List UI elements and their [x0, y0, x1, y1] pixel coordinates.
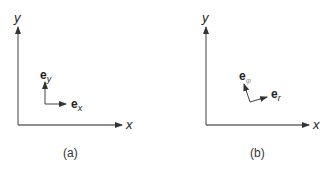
ephi-vector [244, 84, 250, 102]
caption-a: (a) [63, 146, 78, 160]
diagram-canvas: y x ey ex y x eφ er [0, 0, 329, 170]
x-axis-label-a: x [125, 117, 133, 132]
caption-b: (b) [250, 146, 265, 160]
y-axis-label-b: y [201, 10, 210, 25]
figure-a: y x ey ex [13, 10, 133, 132]
er-label: er [271, 87, 282, 103]
x-axis-label-b: x [312, 117, 320, 132]
ephi-label: eφ [239, 69, 251, 85]
ex-label: ex [71, 97, 83, 113]
y-axis-label-a: y [13, 10, 22, 25]
er-vector [250, 97, 267, 102]
ey-label: ey [40, 68, 52, 84]
figure-b: y x eφ er [201, 10, 320, 132]
